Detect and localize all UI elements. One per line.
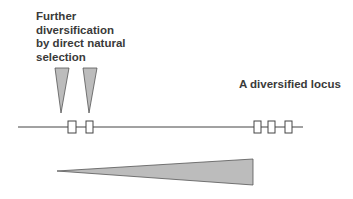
diagram-canvas xyxy=(0,0,353,199)
exon-box-1 xyxy=(68,121,76,133)
gradient-wedge xyxy=(57,159,253,185)
exon-box-2 xyxy=(86,121,93,133)
exon-box-3 xyxy=(254,121,261,133)
exon-box-5 xyxy=(285,121,292,133)
exon-box-4 xyxy=(268,121,275,133)
selection-arrow-1 xyxy=(55,68,69,113)
selection-arrow-2 xyxy=(83,68,97,113)
